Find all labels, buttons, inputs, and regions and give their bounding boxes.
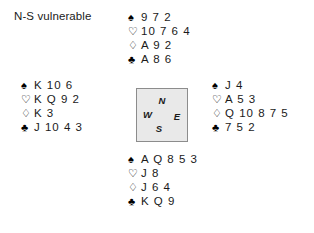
diamond-icon: ♢ bbox=[21, 106, 34, 120]
hand-east-hearts-row: ♡ A 5 3 bbox=[212, 92, 289, 106]
hand-south-diamonds: J 6 4 bbox=[141, 180, 171, 194]
hand-south-diamonds-row: ♢ J 6 4 bbox=[128, 180, 198, 194]
club-icon: ♣ bbox=[21, 120, 34, 134]
hand-west-clubs: J 10 4 3 bbox=[34, 120, 83, 134]
compass-south-label: S bbox=[156, 124, 162, 134]
hand-east-clubs-row: ♣ 7 5 2 bbox=[212, 120, 289, 134]
hand-north-spades-row: ♠ 9 7 2 bbox=[128, 10, 191, 24]
diamond-icon: ♢ bbox=[128, 180, 141, 194]
hand-north-clubs-row: ♣ A 8 6 bbox=[128, 52, 191, 66]
compass-north-label: N bbox=[159, 96, 166, 106]
hand-south: ♠ A Q 8 5 3 ♡ J 8 ♢ J 6 4 ♣ K Q 9 bbox=[128, 152, 198, 208]
hand-north: ♠ 9 7 2 ♡ 10 7 6 4 ♢ A 9 2 ♣ A 8 6 bbox=[128, 10, 191, 66]
hand-south-clubs: K Q 9 bbox=[141, 194, 175, 208]
club-icon: ♣ bbox=[128, 52, 141, 66]
hand-north-diamonds-row: ♢ A 9 2 bbox=[128, 38, 191, 52]
compass-east-label: E bbox=[174, 112, 180, 122]
hand-south-hearts: J 8 bbox=[141, 166, 159, 180]
hand-west-hearts-row: ♡ K Q 9 2 bbox=[21, 92, 83, 106]
hand-west-diamonds-row: ♢ K 3 bbox=[21, 106, 83, 120]
diamond-icon: ♢ bbox=[212, 106, 225, 120]
heart-icon: ♡ bbox=[21, 92, 34, 106]
hand-west-spades-row: ♠ K 10 6 bbox=[21, 78, 83, 92]
hand-west-diamonds: K 3 bbox=[34, 106, 54, 120]
hand-south-spades-row: ♠ A Q 8 5 3 bbox=[128, 152, 198, 166]
hand-west-hearts: K Q 9 2 bbox=[34, 92, 80, 106]
hand-south-hearts-row: ♡ J 8 bbox=[128, 166, 198, 180]
heart-icon: ♡ bbox=[128, 24, 141, 38]
diamond-icon: ♢ bbox=[128, 38, 141, 52]
hand-east-hearts: A 5 3 bbox=[225, 92, 256, 106]
heart-icon: ♡ bbox=[212, 92, 225, 106]
bridge-deal-diagram: N-S vulnerable ♠ 9 7 2 ♡ 10 7 6 4 ♢ A 9 … bbox=[0, 0, 314, 233]
compass-box: N W E S bbox=[136, 88, 188, 142]
spade-icon: ♠ bbox=[128, 10, 141, 24]
hand-north-diamonds: A 9 2 bbox=[141, 38, 172, 52]
spade-icon: ♠ bbox=[21, 78, 34, 92]
hand-north-hearts-row: ♡ 10 7 6 4 bbox=[128, 24, 191, 38]
hand-north-clubs: A 8 6 bbox=[141, 52, 172, 66]
heart-icon: ♡ bbox=[128, 166, 141, 180]
hand-west: ♠ K 10 6 ♡ K Q 9 2 ♢ K 3 ♣ J 10 4 3 bbox=[21, 78, 83, 134]
hand-south-spades: A Q 8 5 3 bbox=[141, 152, 198, 166]
hand-east: ♠ J 4 ♡ A 5 3 ♢ Q 10 8 7 5 ♣ 7 5 2 bbox=[212, 78, 289, 134]
club-icon: ♣ bbox=[128, 194, 141, 208]
spade-icon: ♠ bbox=[212, 78, 225, 92]
compass-west-label: W bbox=[143, 110, 152, 120]
vulnerability-label: N-S vulnerable bbox=[14, 10, 91, 22]
club-icon: ♣ bbox=[212, 120, 225, 134]
hand-south-clubs-row: ♣ K Q 9 bbox=[128, 194, 198, 208]
hand-north-spades: 9 7 2 bbox=[141, 10, 172, 24]
hand-east-clubs: 7 5 2 bbox=[225, 120, 256, 134]
spade-icon: ♠ bbox=[128, 152, 141, 166]
hand-north-hearts: 10 7 6 4 bbox=[141, 24, 191, 38]
hand-east-spades-row: ♠ J 4 bbox=[212, 78, 289, 92]
hand-east-diamonds-row: ♢ Q 10 8 7 5 bbox=[212, 106, 289, 120]
hand-west-spades: K 10 6 bbox=[34, 78, 73, 92]
hand-west-clubs-row: ♣ J 10 4 3 bbox=[21, 120, 83, 134]
hand-east-diamonds: Q 10 8 7 5 bbox=[225, 106, 289, 120]
hand-east-spades: J 4 bbox=[225, 78, 243, 92]
